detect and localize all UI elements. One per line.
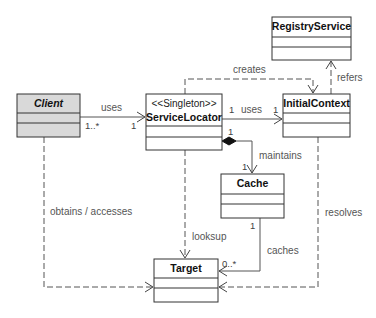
source-multiplicity: 1	[229, 104, 234, 115]
relation-locator-uses-context: 1 uses 1	[222, 104, 282, 124]
relation-label: refers	[337, 72, 363, 83]
class-service-locator[interactable]: <<Singleton>> ServiceLocator	[146, 94, 222, 150]
class-name: Cache	[237, 177, 269, 189]
relation-client-obtains-target: obtains / accesses	[44, 137, 153, 292]
relation-label: caches	[267, 245, 299, 256]
stereotype-label: <<Singleton>>	[151, 98, 216, 109]
class-target[interactable]: Target	[154, 259, 218, 302]
source-multiplicity: 1..*	[85, 120, 100, 131]
target-multiplicity: 1	[242, 161, 247, 172]
relation-label: maintains	[259, 150, 302, 161]
class-name: ServiceLocator	[146, 111, 222, 123]
relation-locator-looksup-target: looksup	[180, 150, 227, 258]
source-multiplicity: 1	[228, 126, 233, 137]
class-name: InitialContext	[283, 97, 350, 109]
relation-label: obtains / accesses	[50, 206, 132, 217]
class-name: Client	[34, 97, 64, 109]
uml-class-diagram: uses 1..* 1 1 uses 1 creates refers 1 ma…	[0, 0, 376, 318]
relation-client-uses-locator: uses 1..* 1	[80, 102, 145, 131]
class-registry-service[interactable]: RegistryService	[272, 17, 352, 60]
source-multiplicity: 1	[250, 220, 255, 231]
relation-label: resolves	[325, 207, 362, 218]
relation-locator-creates-context: creates	[185, 64, 318, 94]
target-multiplicity: 1	[273, 104, 278, 115]
target-multiplicity: 1	[131, 120, 136, 131]
class-initial-context[interactable]: InitialContext	[283, 94, 350, 137]
class-cache[interactable]: Cache	[221, 174, 284, 218]
relation-label: creates	[233, 64, 266, 75]
relation-cache-caches-target: 1 caches 0..*	[219, 218, 299, 276]
target-multiplicity: 0..*	[222, 258, 237, 269]
relation-context-refers-registry: refers	[326, 61, 363, 94]
relation-label: uses	[101, 102, 122, 113]
class-client[interactable]: Client	[17, 94, 80, 137]
relation-label: looksup	[192, 231, 227, 242]
class-name: Target	[170, 262, 202, 274]
class-name: RegistryService	[272, 20, 352, 32]
relation-label: uses	[241, 104, 262, 115]
composition-diamond-icon	[222, 137, 236, 145]
